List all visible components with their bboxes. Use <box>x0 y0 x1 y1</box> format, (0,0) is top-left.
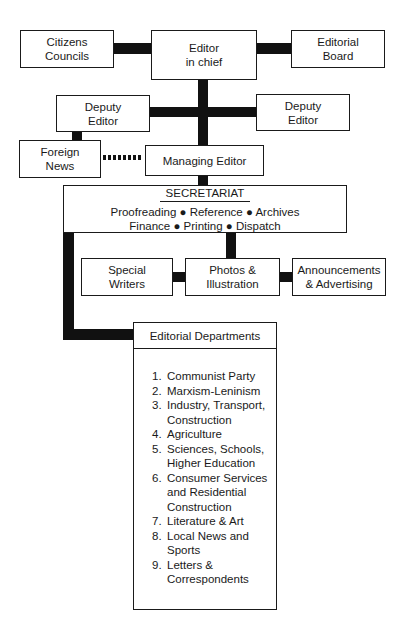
department-name: Local News andSports <box>167 529 249 558</box>
secretariat-line-2: Finance ● Printing ● Dispatch <box>129 219 280 233</box>
department-item: 5.Sciences, Schools,Higher Education <box>152 442 276 471</box>
label-line: Board <box>323 49 354 63</box>
secretariat-line-1: Proofreading ● Reference ● Archives <box>110 205 299 219</box>
department-number: 5. <box>152 442 167 471</box>
connector-secretariat-departments-vertical <box>63 232 74 340</box>
foreign-news-box: Foreign News <box>19 140 101 178</box>
connector-photos-announcements <box>279 272 293 282</box>
label-line: in chief <box>186 55 222 69</box>
department-number: 7. <box>152 514 167 529</box>
department-number: 6. <box>152 471 167 515</box>
label-line: Managing Editor <box>163 154 247 168</box>
label-line: Deputy <box>285 99 321 113</box>
photos-illustration-box: Photos & Illustration <box>185 258 280 296</box>
department-item: 1.Communist Party <box>152 369 276 384</box>
label-line: Editor <box>288 113 318 127</box>
label-line: Special <box>108 263 146 277</box>
department-item: 3.Industry, Transport,Construction <box>152 398 276 427</box>
department-name: Literature & Art <box>167 514 244 529</box>
label-line: Citizens <box>47 35 88 49</box>
deputy-editor-left-box: Deputy Editor <box>56 95 150 132</box>
department-number: 9. <box>152 558 167 587</box>
connector-citizens-editor <box>113 43 152 54</box>
department-item: 6.Consumer Servicesand ResidentialConstr… <box>152 471 276 515</box>
department-item: 8.Local News andSports <box>152 529 276 558</box>
connector-editor-board <box>256 43 292 54</box>
department-item: 4.Agriculture <box>152 427 276 442</box>
label-line: Councils <box>45 49 89 63</box>
editor-in-chief-box: Editor in chief <box>151 30 257 80</box>
department-name: Sciences, Schools,Higher Education <box>167 442 264 471</box>
connector-deputies <box>149 107 257 117</box>
department-number: 2. <box>152 384 167 399</box>
department-name: Agriculture <box>167 427 222 442</box>
connector-secretariat-departments-horizontal <box>63 329 134 340</box>
deputy-editor-right-box: Deputy Editor <box>256 94 350 131</box>
department-name: Letters &Correspondents <box>167 558 249 587</box>
secretariat-box: SECRETARIAT Proofreading ● Reference ● A… <box>63 185 347 233</box>
label-line: Editorial <box>317 35 359 49</box>
department-list: 1.Communist Party2.Marxism-Leninism3.Ind… <box>134 349 276 587</box>
label-line: Foreign <box>41 145 80 159</box>
department-name: Industry, Transport,Construction <box>167 398 265 427</box>
label-line: Editor <box>189 41 219 55</box>
label-line: Deputy <box>85 100 121 114</box>
department-number: 8. <box>152 529 167 558</box>
label-line: Editor <box>88 114 118 128</box>
connector-special-photos <box>172 272 186 282</box>
label-line: Announcements <box>297 263 380 277</box>
label-line: Writers <box>109 277 145 291</box>
department-item: 7.Literature & Art <box>152 514 276 529</box>
department-number: 1. <box>152 369 167 384</box>
department-number: 4. <box>152 427 167 442</box>
department-number: 3. <box>152 398 167 427</box>
department-name: Marxism-Leninism <box>167 384 260 399</box>
label-line: & Advertising <box>305 277 372 291</box>
editorial-board-box: Editorial Board <box>291 30 385 68</box>
managing-editor-box: Managing Editor <box>145 145 264 176</box>
label-line: News <box>46 159 75 173</box>
secretariat-title: SECRETARIAT <box>160 186 251 202</box>
department-name: Consumer Servicesand ResidentialConstruc… <box>167 471 267 515</box>
department-name: Communist Party <box>167 369 255 384</box>
announcements-advertising-box: Announcements & Advertising <box>292 258 386 296</box>
connector-secretariat-photos <box>226 232 236 259</box>
department-item: 2.Marxism-Leninism <box>152 384 276 399</box>
editorial-departments-title: Editorial Departments <box>134 323 276 349</box>
label-line: Photos & <box>209 263 256 277</box>
department-item: 9.Letters &Correspondents <box>152 558 276 587</box>
editorial-departments-box: Editorial Departments 1.Communist Party2… <box>133 322 277 610</box>
citizens-councils-box: Citizens Councils <box>20 30 114 68</box>
special-writers-box: Special Writers <box>81 258 173 296</box>
dotted-connector-foreign-managing <box>103 155 143 160</box>
label-line: Illustration <box>206 277 258 291</box>
